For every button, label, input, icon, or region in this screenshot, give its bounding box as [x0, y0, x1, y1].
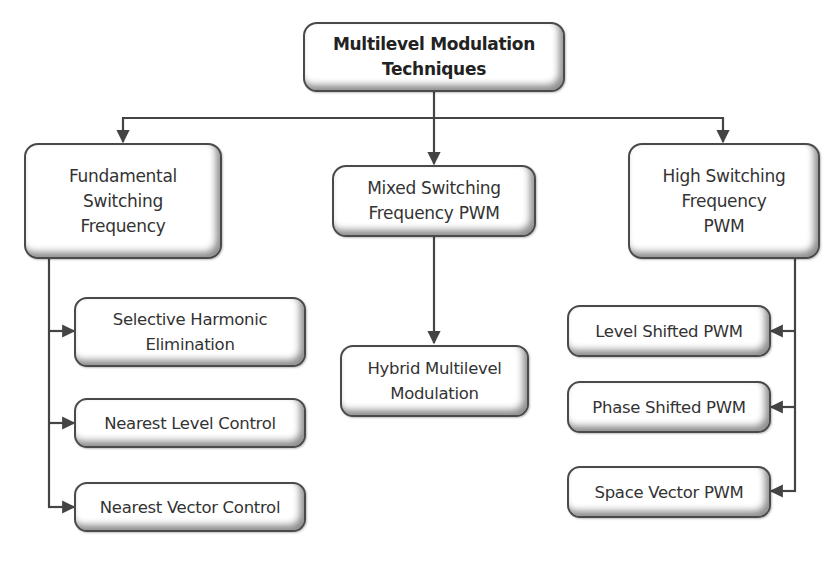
leaf-label: Space Vector PWM	[594, 480, 743, 505]
category-fundamental-switching-frequency: Fundamental Switching Frequency	[24, 143, 222, 259]
category-label: Fundamental Switching Frequency	[69, 164, 177, 239]
leaf-level-shifted-pwm: Level Shifted PWM	[567, 305, 771, 357]
leaf-nearest-level-control: Nearest Level Control	[74, 398, 306, 448]
root-label: Multilevel Modulation Techniques	[333, 32, 535, 82]
leaf-space-vector-pwm: Space Vector PWM	[567, 466, 771, 518]
root-node: Multilevel Modulation Techniques	[303, 22, 565, 92]
leaf-label: Nearest Vector Control	[100, 495, 280, 520]
leaf-label: Selective Harmonic Elimination	[113, 307, 268, 357]
leaf-label: Nearest Level Control	[104, 411, 276, 436]
category-high-switching-frequency-pwm: High Switching Frequency PWM	[628, 143, 820, 259]
category-label: High Switching Frequency PWM	[663, 164, 786, 239]
leaf-label: Hybrid Multilevel Modulation	[367, 356, 501, 406]
category-label: Mixed Switching Frequency PWM	[367, 176, 501, 226]
category-mixed-switching-frequency-pwm: Mixed Switching Frequency PWM	[332, 165, 536, 237]
leaf-label: Level Shifted PWM	[595, 319, 743, 344]
leaf-label: Phase Shifted PWM	[592, 395, 745, 420]
modulation-techniques-diagram: Multilevel Modulation Techniques Fundame…	[0, 0, 840, 564]
leaf-selective-harmonic-elimination: Selective Harmonic Elimination	[74, 297, 306, 367]
leaf-phase-shifted-pwm: Phase Shifted PWM	[567, 381, 771, 433]
leaf-nearest-vector-control: Nearest Vector Control	[74, 482, 306, 532]
leaf-hybrid-multilevel-modulation: Hybrid Multilevel Modulation	[340, 345, 529, 417]
